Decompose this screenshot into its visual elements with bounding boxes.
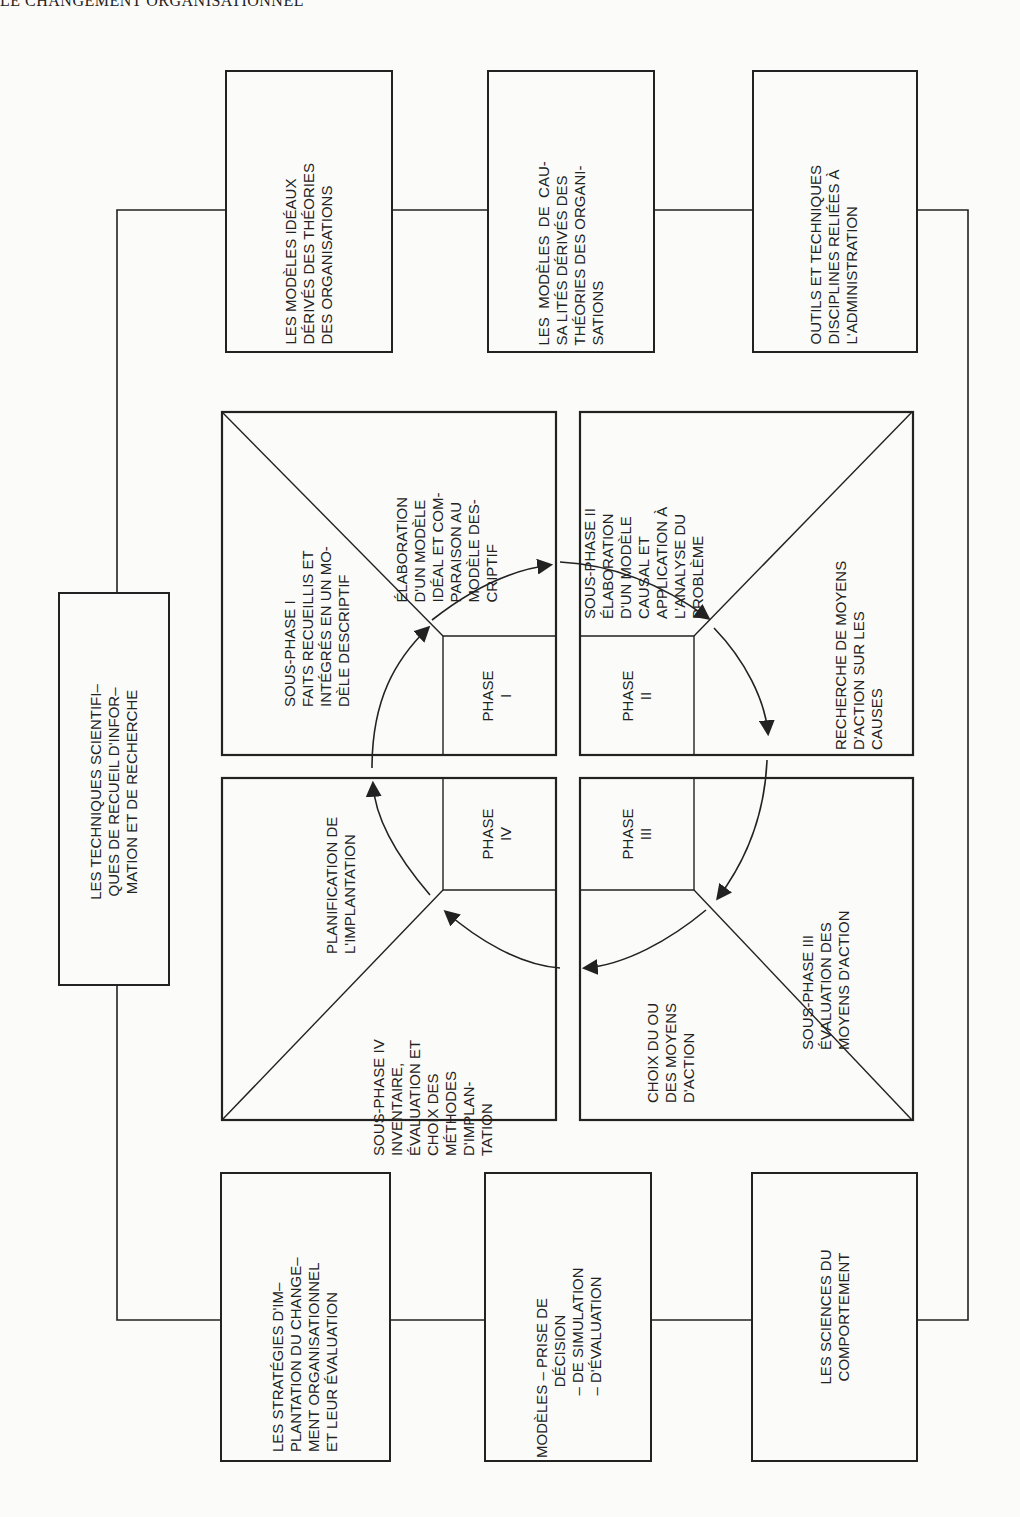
phase3-label: PHASE III bbox=[619, 777, 657, 892]
top-box-tools-techniques: OUTILS ET TECHNIQUES DISCIPLINES RELIÉES… bbox=[752, 70, 918, 353]
phase4-step-text: PLANIFICATION DE L'IMPLANTATION bbox=[323, 754, 361, 954]
phase1-label: PHASE I bbox=[479, 639, 517, 754]
phase3-step-text: CHOIX DU OU DES MOYENS D'ACTION bbox=[644, 953, 700, 1103]
bottom-box-decision-models: MODÈLES – PRISE DE DÉCISION – DE SIMULAT… bbox=[484, 1172, 652, 1462]
phase1-subphase-text: SOUS-PHASE I FAITS RECUEILLIS ET INTÉGRÉ… bbox=[281, 407, 355, 707]
bottom-box-implementation-strategies-text: LES STRATÉGIES D'IM– PLANTATION DU CHANG… bbox=[269, 1170, 343, 1462]
left-box-scientific-techniques: LES TECHNIQUES SCIENTIFI– QUES DE RECUEI… bbox=[58, 592, 170, 986]
bottom-box-behavioral-sciences-text: LES SCIENCES DU COMPORTEMENT bbox=[817, 1171, 855, 1463]
top-box-tools-techniques-text: OUTILS ET TECHNIQUES DISCIPLINES RELIÉES… bbox=[807, 70, 863, 355]
phase2-step-text: RECHERCHE DE MOYENS D'ACTION SUR LES CAU… bbox=[832, 450, 888, 750]
phase2-subphase-text: SOUS-PHASE II ÉLABORATION D'UN MODÈLE CA… bbox=[581, 439, 709, 619]
left-box-text: LES TECHNIQUES SCIENTIFI– QUES DE RECUEI… bbox=[87, 597, 143, 987]
bottom-box-decision-models-text: MODÈLES – PRISE DE DÉCISION – DE SIMULAT… bbox=[533, 1170, 607, 1462]
phase4-label: PHASE IV bbox=[479, 777, 517, 892]
bottom-box-implementation-strategies: LES STRATÉGIES D'IM– PLANTATION DU CHANG… bbox=[220, 1172, 391, 1462]
top-box-causal-models: LES MODÈLES DE CAU- SA LITÉS DÉRIVÉS DES… bbox=[487, 70, 655, 353]
phase2-label: PHASE II bbox=[619, 639, 657, 754]
top-box-ideal-models-text: LES MODÈLES IDÉAUX DÉRIVÉS DES THÉORIES … bbox=[282, 70, 338, 355]
phase3-subphase-text: SOUS-PHASE III ÉVALUATION DES MOYENS D'A… bbox=[799, 850, 855, 1050]
bottom-box-behavioral-sciences: LES SCIENCES DU COMPORTEMENT bbox=[751, 1172, 918, 1462]
top-box-ideal-models: LES MODÈLES IDÉAUX DÉRIVÉS DES THÉORIES … bbox=[225, 70, 393, 353]
phase4-subphase-text: SOUS-PHASE IV INVENTAIRE, ÉVALUATION ET … bbox=[370, 976, 498, 1156]
top-box-causal-models-text: LES MODÈLES DE CAU- SA LITÉS DÉRIVÉS DES… bbox=[535, 71, 609, 356]
phase1-step-text: ÉLABORATION D'UN MODÈLE IDÉAL ET COM- PA… bbox=[393, 378, 503, 603]
